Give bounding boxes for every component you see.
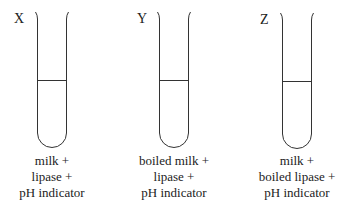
caption-z-line-3: pH indicator	[247, 185, 347, 201]
caption-y-line-1: boiled milk +	[124, 153, 224, 169]
test-tube-y	[158, 12, 191, 148]
test-tube-z	[281, 13, 314, 149]
caption-z-line-2: boiled lipase +	[247, 169, 347, 185]
tube-label-z: Z	[260, 13, 269, 27]
caption-y-line-2: lipase +	[124, 169, 224, 185]
caption-y: boiled milk + lipase + pH indicator	[124, 153, 224, 201]
caption-x-line-2: lipase +	[2, 169, 102, 185]
tube-label-y: Y	[137, 12, 147, 26]
caption-z: milk + boiled lipase + pH indicator	[247, 153, 347, 201]
caption-x-line-1: milk +	[2, 153, 102, 169]
caption-x-line-3: pH indicator	[2, 185, 102, 201]
tube-label-x: X	[14, 12, 24, 26]
test-tube-x	[36, 12, 69, 148]
caption-y-line-3: pH indicator	[124, 185, 224, 201]
caption-x: milk + lipase + pH indicator	[2, 153, 102, 201]
caption-z-line-1: milk +	[247, 153, 347, 169]
